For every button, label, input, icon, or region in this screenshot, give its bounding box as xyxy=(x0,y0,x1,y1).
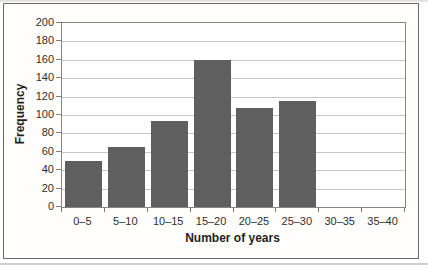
x-tick-label: 5–10 xyxy=(104,214,147,228)
x-tick-label: 35–40 xyxy=(361,214,404,228)
y-tick-label: 160 xyxy=(14,52,54,66)
x-tick-label: 25–30 xyxy=(275,214,318,228)
x-tick-label: 20–25 xyxy=(233,214,276,228)
bar-25–30 xyxy=(279,101,316,207)
y-tick-label: 80 xyxy=(14,125,54,139)
gridline xyxy=(62,133,405,134)
x-tick-mark xyxy=(233,208,234,212)
bar-15–20 xyxy=(194,60,231,207)
gridline xyxy=(62,60,405,61)
y-tick-mark xyxy=(56,188,61,189)
x-tick-label: 10–15 xyxy=(147,214,190,228)
x-tick-label: 15–20 xyxy=(190,214,233,228)
gridline xyxy=(62,115,405,116)
x-tick-mark xyxy=(190,208,191,212)
x-tick-mark xyxy=(104,208,105,212)
y-tick-mark xyxy=(56,22,61,23)
y-tick-mark xyxy=(56,169,61,170)
bar-10–15 xyxy=(151,121,188,207)
y-tick-mark xyxy=(56,77,61,78)
y-tick-label: 0 xyxy=(14,199,54,213)
y-tick-mark xyxy=(56,40,61,41)
x-tick-mark xyxy=(361,208,362,212)
y-tick-mark xyxy=(56,206,61,207)
x-axis-title: Number of years xyxy=(61,231,404,245)
y-tick-label: 60 xyxy=(14,144,54,158)
gridline xyxy=(62,78,405,79)
bar-0–5 xyxy=(65,161,102,207)
x-tick-mark xyxy=(275,208,276,212)
y-tick-label: 120 xyxy=(14,89,54,103)
y-tick-label: 200 xyxy=(14,15,54,29)
gridline xyxy=(62,41,405,42)
x-tick-mark xyxy=(318,208,319,212)
y-tick-mark xyxy=(56,59,61,60)
x-tick-label: 30–35 xyxy=(318,214,361,228)
histogram-figure: Frequency Number of years 02040608010012… xyxy=(0,0,428,270)
bar-5–10 xyxy=(108,147,145,207)
y-tick-mark xyxy=(56,96,61,97)
chart-frame: Frequency Number of years 02040608010012… xyxy=(3,3,419,259)
x-tick-mark xyxy=(404,208,405,212)
y-tick-label: 100 xyxy=(14,107,54,121)
y-tick-mark xyxy=(56,114,61,115)
plot-area xyxy=(61,22,406,208)
y-tick-mark xyxy=(56,132,61,133)
y-tick-label: 20 xyxy=(14,181,54,195)
x-tick-mark xyxy=(61,208,62,212)
scan-artifact-bottom xyxy=(0,263,428,265)
x-tick-mark xyxy=(147,208,148,212)
bar-20–25 xyxy=(236,108,273,207)
gridline xyxy=(62,97,405,98)
y-tick-mark xyxy=(56,151,61,152)
x-tick-label: 0–5 xyxy=(61,214,104,228)
y-tick-label: 140 xyxy=(14,70,54,84)
scan-artifact-top xyxy=(0,0,428,2)
y-tick-label: 180 xyxy=(14,33,54,47)
y-tick-label: 40 xyxy=(14,162,54,176)
